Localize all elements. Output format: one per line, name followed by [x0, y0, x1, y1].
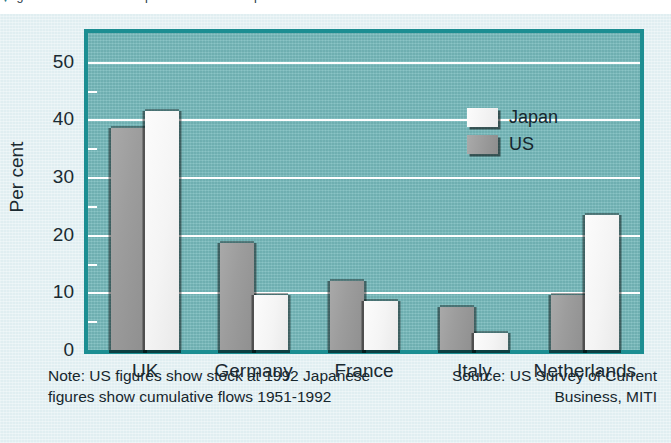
minor-tick-stub	[88, 148, 97, 150]
bar-japan-netherlands	[585, 215, 619, 350]
y-axis-tick-50: 50	[0, 52, 74, 71]
minor-tick-stub	[88, 264, 97, 266]
minor-tick-stub	[88, 206, 97, 208]
chart-source: Source: US Survey of Current Business, M…	[397, 366, 657, 407]
gridline	[88, 62, 640, 64]
legend-label-us: US	[509, 134, 534, 155]
chart-note: Note: US figures show stock at 1992 Japa…	[48, 366, 378, 407]
figure-panel: Per cent 01020304050 Japan US UKGermanyF…	[0, 14, 671, 443]
legend-swatch-us-icon	[467, 135, 498, 154]
bar-us-italy	[440, 307, 474, 350]
legend-item-us: US	[467, 134, 558, 155]
figure-title: Figure 1: Destination/recipients of US a…	[6, 0, 420, 3]
bar-japan-france	[364, 301, 398, 350]
y-axis-tick-20: 20	[0, 225, 74, 244]
chart-legend: Japan US	[467, 107, 558, 161]
bar-us-netherlands	[551, 295, 585, 350]
bar-us-uk	[111, 128, 145, 350]
figure-headline-strip: ▼ Figure 1: Destination/recipients of US…	[0, 0, 671, 14]
bar-us-germany	[220, 243, 254, 350]
y-axis-tick-30: 30	[0, 167, 74, 186]
bar-us-france	[330, 281, 364, 350]
legend-swatch-japan-icon	[467, 108, 498, 127]
bar-japan-uk	[145, 111, 179, 350]
plot-area: Japan US	[84, 29, 644, 354]
y-axis-tick-0: 0	[0, 340, 74, 359]
legend-label-japan: Japan	[509, 107, 558, 128]
y-axis-tick-40: 40	[0, 109, 74, 128]
legend-item-japan: Japan	[467, 107, 558, 128]
bar-japan-germany	[254, 295, 288, 350]
minor-tick-stub	[88, 321, 97, 323]
minor-tick-stub	[88, 91, 97, 93]
y-axis-tick-10: 10	[0, 282, 74, 301]
bar-japan-italy	[474, 333, 508, 350]
